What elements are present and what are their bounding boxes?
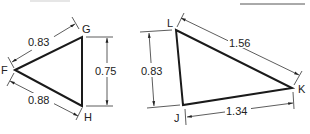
- dim-label-fh: 0.88: [28, 94, 49, 106]
- dim-label-lk: 1.56: [229, 37, 250, 49]
- diagram-canvas: 0.83 0.88 0.75 F G H 1.56 0.83: [0, 0, 310, 134]
- triangle-fgh: 0.83 0.88 0.75 F G H: [1, 17, 120, 123]
- vertex-label-l: L: [167, 17, 173, 29]
- dim-label-lj: 0.83: [141, 65, 162, 77]
- dim-label-fg: 0.83: [28, 36, 49, 48]
- triangle-ljk: 1.56 0.83 1.34 L J K: [139, 13, 306, 125]
- dim-label-jk: 1.34: [226, 105, 247, 117]
- dim-label-gh: 0.75: [95, 65, 116, 77]
- header-remnant: [30, 0, 70, 2]
- vertex-label-h: H: [84, 111, 92, 123]
- vertex-label-k: K: [298, 83, 306, 95]
- vertex-label-j: J: [174, 112, 180, 124]
- vertex-label-g: G: [82, 23, 91, 35]
- vertex-label-f: F: [1, 64, 8, 76]
